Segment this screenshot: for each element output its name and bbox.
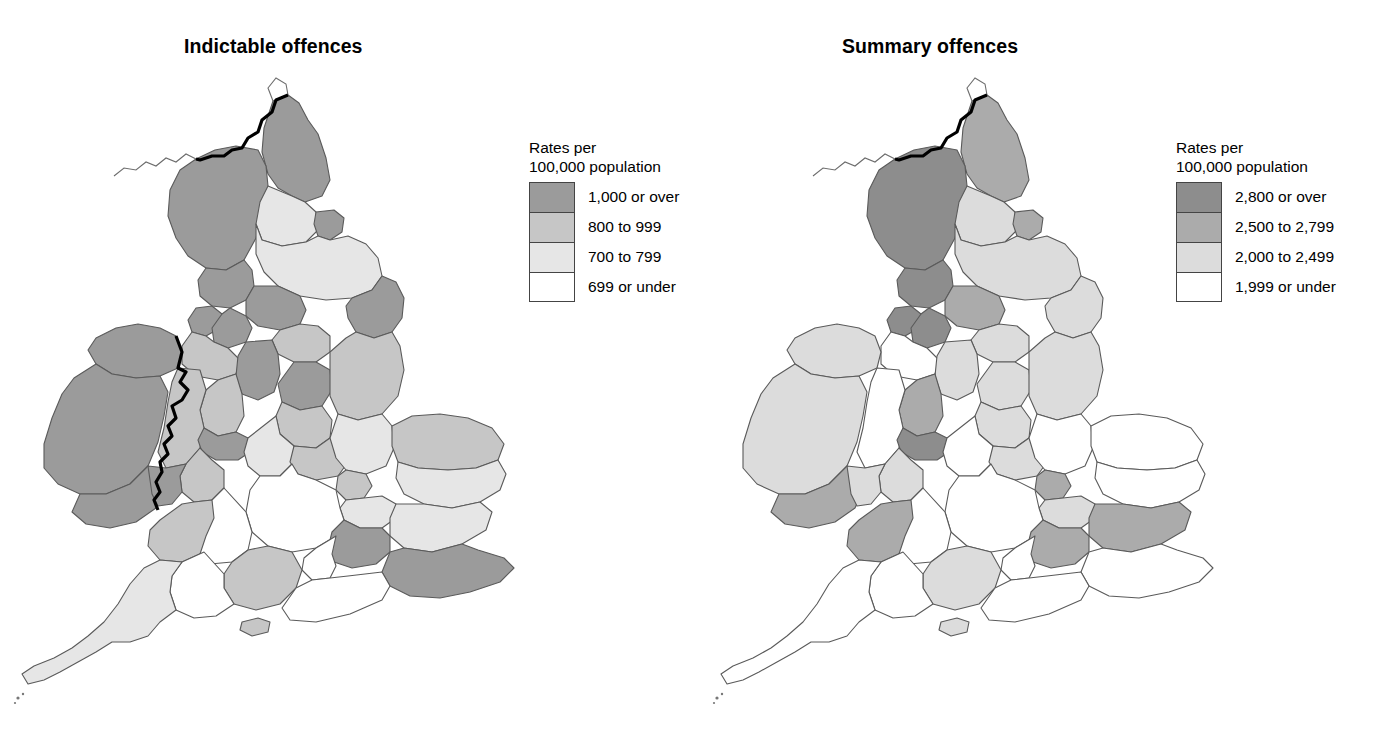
area-essex [1089,502,1191,552]
area-lincolnshire [330,332,404,420]
legend-title-left: Rates per 100,000 population [529,138,679,176]
legend-item: 2,500 to 2,799 [1176,212,1336,242]
legend-item: 2,000 to 2,499 [1176,242,1336,272]
area-kent [382,544,514,598]
legend-item: 1,999 or under [1176,272,1336,302]
area-south-yorkshire [272,324,330,362]
legend-swatch [1176,242,1222,272]
legend-item: 700 to 799 [529,242,679,272]
legend-title-right: Rates per 100,000 population [1176,138,1336,176]
figure-root: Indictable offences .b{stroke:#5a5a5a;st… [0,0,1398,745]
legend-label: 2,800 or over [1235,182,1326,212]
legend-swatch [1176,182,1222,212]
legend-swatch [529,242,575,272]
legend-swatch [1176,272,1222,302]
legend-title-line2: 100,000 population [529,157,679,176]
page-title-left: Indictable offences [184,35,363,58]
area-lincolnshire [1029,332,1103,420]
isles-of-scilly-right [713,693,723,704]
area-kent [1081,544,1213,598]
area-south-yorkshire [971,324,1029,362]
legend-title-line1: Rates per [1176,138,1336,157]
area-cumbria [867,146,967,270]
legend-swatch [1176,212,1222,242]
area-staffordshire [200,374,244,436]
legend-label: 2,500 to 2,799 [1235,212,1334,242]
legend-label: 2,000 to 2,499 [1235,242,1334,272]
area-norfolk [1091,414,1203,470]
legend-item: 699 or under [529,272,679,302]
areas-layer-right [721,95,1213,684]
area-essex [390,502,492,552]
legend-indictable: Rates per 100,000 population 1,000 or ov… [529,138,679,302]
legend-swatch [529,272,575,302]
legend-swatches-left: 1,000 or over 800 to 999 700 to 799 699 … [529,182,679,302]
legend-label: 800 to 999 [588,212,661,242]
area-bedfordshire [1035,470,1071,500]
legend-title-line2: 100,000 population [1176,157,1336,176]
legend-label: 1,999 or under [1235,272,1336,302]
legend-summary: Rates per 100,000 population 2,800 or ov… [1176,138,1336,302]
area-cleveland [314,210,344,240]
area-derbyshire [236,340,280,400]
legend-title-line1: Rates per [529,138,679,157]
area-nottinghamshire [977,362,1031,410]
legend-label: 699 or under [588,272,676,302]
area-nottinghamshire [278,362,332,410]
area-derbyshire [935,340,979,400]
legend-item: 1,000 or over [529,182,679,212]
areas-layer-left [22,95,514,684]
legend-label: 700 to 799 [588,242,661,272]
area-cleveland [1013,210,1043,240]
area-staffordshire [899,374,943,436]
area-isle-of-wight [240,618,270,636]
area-isle-of-wight [939,618,969,636]
page-title-right: Summary offences [842,35,1018,58]
legend-swatch [529,212,575,242]
area-devon-and-cornwall [721,560,881,684]
isles-of-scilly-left [14,693,24,704]
area-bedfordshire [336,470,372,500]
legend-item: 800 to 999 [529,212,679,242]
legend-label: 1,000 or over [588,182,679,212]
panel-summary-offences: Summary offences [699,0,1398,745]
legend-item: 2,800 or over [1176,182,1336,212]
area-norfolk [392,414,504,470]
legend-swatch [529,182,575,212]
legend-swatches-right: 2,800 or over 2,500 to 2,799 2,000 to 2,… [1176,182,1336,302]
area-devon-and-cornwall [22,560,182,684]
panel-indictable-offences: Indictable offences .b{stroke:#5a5a5a;st… [0,0,699,745]
area-cumbria [168,146,268,270]
